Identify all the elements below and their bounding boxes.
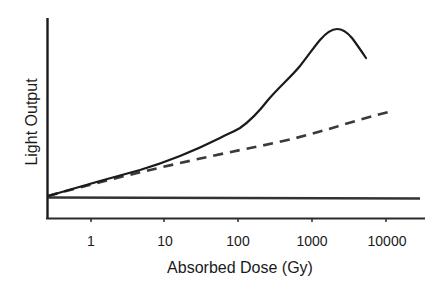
baseline-series <box>48 198 420 199</box>
x-tick-label-10: 10 <box>157 233 173 249</box>
x-tick-label-10000: 10000 <box>368 233 407 249</box>
x-tick-label-1000: 1000 <box>296 233 327 249</box>
x-tick-label-100: 100 <box>226 233 250 249</box>
light-output-chart: 1 10 100 1000 10000 Absorbed Dose (Gy) L… <box>0 0 443 292</box>
measured-response-series <box>48 29 366 196</box>
x-tick-label-1: 1 <box>87 233 95 249</box>
linear-response-series <box>48 112 389 196</box>
x-axis-label: Absorbed Dose (Gy) <box>167 259 313 276</box>
y-axis-label: Light Output <box>23 78 40 166</box>
